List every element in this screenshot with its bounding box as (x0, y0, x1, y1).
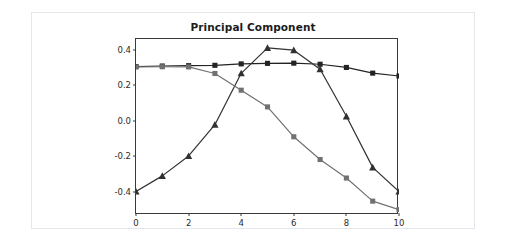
data-point-marker (291, 134, 296, 139)
y-axis-tick-label: 0.4 (117, 45, 131, 55)
data-point-marker (343, 113, 350, 120)
data-point-marker (211, 121, 218, 128)
data-point-marker (265, 61, 270, 66)
data-point-marker (318, 157, 323, 162)
data-point-marker (370, 71, 375, 76)
series-component-3 (136, 64, 399, 212)
data-point-marker (396, 207, 399, 212)
y-axis-tick-mark (133, 120, 136, 121)
x-axis-tick-mark (241, 213, 242, 216)
x-axis-tick-mark (399, 213, 400, 216)
data-point-marker (186, 64, 191, 69)
data-point-marker (396, 73, 399, 78)
x-axis-tick-label: 4 (238, 218, 243, 228)
x-axis-tick-mark (293, 213, 294, 216)
data-point-marker (239, 88, 244, 93)
data-point-marker (239, 61, 244, 66)
series-line (136, 48, 399, 192)
data-point-marker (370, 199, 375, 204)
y-axis-tick-mark (133, 156, 136, 157)
y-axis-tick-label: 0.0 (117, 116, 131, 126)
y-axis-tick-label: -0.2 (114, 151, 131, 161)
data-point-marker (212, 63, 217, 68)
chart-title: Principal Component (32, 21, 474, 33)
data-point-marker (136, 64, 139, 69)
data-point-marker (212, 71, 217, 76)
plot-svg (136, 39, 399, 215)
data-point-marker (291, 61, 296, 66)
figure-card: Principal Component 0.40.20.0-0.2-0.4024… (31, 12, 475, 229)
data-point-marker (265, 104, 270, 109)
x-axis-tick-label: 10 (394, 218, 405, 228)
x-axis-tick-label: 2 (186, 218, 191, 228)
data-point-marker (369, 164, 376, 171)
y-axis-tick-mark (133, 49, 136, 50)
x-axis-tick-mark (188, 213, 189, 216)
data-point-marker (136, 188, 140, 195)
y-axis-tick-mark (133, 85, 136, 86)
series-component-1 (136, 61, 399, 79)
y-axis-tick-label: -0.4 (114, 187, 131, 197)
page-root: Principal Component 0.40.20.0-0.2-0.4024… (0, 0, 508, 250)
y-axis-tick-label: 0.2 (117, 80, 131, 90)
data-point-marker (344, 175, 349, 180)
x-axis-tick-mark (346, 213, 347, 216)
x-axis-tick-label: 0 (133, 218, 138, 228)
plot-area: 0.40.20.0-0.2-0.40246810 (135, 38, 398, 214)
series-line (136, 67, 399, 210)
data-point-marker (160, 64, 165, 69)
y-axis-tick-mark (133, 191, 136, 192)
x-axis-tick-mark (136, 213, 137, 216)
data-point-marker (344, 65, 349, 70)
x-axis-tick-label: 6 (291, 218, 296, 228)
x-axis-tick-label: 8 (344, 218, 349, 228)
